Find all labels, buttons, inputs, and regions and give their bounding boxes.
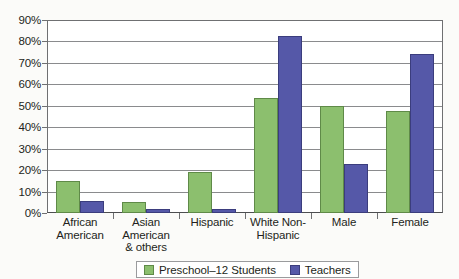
bar-group	[48, 21, 114, 213]
y-axis-tick-mark	[42, 213, 47, 214]
x-axis-category-label-line: African	[47, 216, 113, 229]
bar-students	[188, 172, 212, 213]
bar-teachers	[146, 209, 170, 213]
x-axis-category-label: Female	[377, 216, 443, 229]
x-axis-category-label-line: American	[113, 229, 179, 242]
green-swatch	[144, 265, 154, 275]
x-axis-category-label: Hispanic	[179, 216, 245, 229]
bars-layer	[48, 21, 442, 213]
x-axis-category-label-line: Hispanic	[179, 216, 245, 229]
x-axis-category-label-line: White Non-	[245, 216, 311, 229]
bar-students	[320, 106, 344, 213]
bar-group	[246, 21, 312, 213]
bar-students	[122, 202, 146, 213]
legend-entry: Preschool–12 Students	[144, 264, 276, 276]
bar-group	[312, 21, 378, 213]
y-axis-tick-label: 40%	[0, 122, 41, 133]
bar-chart-figure: 90%80%70%60%50%40%30%20%10%0% AfricanAme…	[0, 0, 459, 279]
bar-teachers	[410, 54, 434, 213]
bar-teachers	[212, 209, 236, 213]
bar-students	[56, 181, 80, 213]
x-axis-category-label-line: & others	[113, 241, 179, 254]
bar-teachers	[278, 36, 302, 213]
bar-group	[114, 21, 180, 213]
legend-label: Teachers	[305, 264, 351, 276]
x-axis: AfricanAmericanAsianAmerican& othersHisp…	[47, 216, 443, 256]
bar-teachers	[344, 164, 368, 213]
y-axis-tick-label: 50%	[0, 100, 41, 111]
y-axis-tick-label: 20%	[0, 165, 41, 176]
bar-students	[254, 98, 278, 213]
y-axis-tick-label: 70%	[0, 57, 41, 68]
chart-legend: Preschool–12 StudentsTeachers	[136, 261, 359, 278]
legend-entry: Teachers	[290, 264, 351, 276]
x-axis-category-label-line: Male	[311, 216, 377, 229]
y-axis-tick-label: 80%	[0, 36, 41, 47]
blue-swatch	[290, 265, 300, 275]
bar-students	[386, 111, 410, 213]
y-axis-tick-label: 60%	[0, 79, 41, 90]
x-axis-category-label: AfricanAmerican	[47, 216, 113, 241]
x-axis-category-label-line: Hispanic	[245, 229, 311, 242]
x-axis-category-label: AsianAmerican& others	[113, 216, 179, 254]
x-axis-category-label: Male	[311, 216, 377, 229]
bar-group	[180, 21, 246, 213]
y-axis-tick-label: 10%	[0, 186, 41, 197]
x-axis-category-label: White Non-Hispanic	[245, 216, 311, 241]
bar-group	[378, 21, 444, 213]
y-axis: 90%80%70%60%50%40%30%20%10%0%	[0, 20, 41, 213]
y-axis-tick-label: 0%	[0, 208, 41, 219]
y-axis-tick-label: 90%	[0, 15, 41, 26]
legend-label: Preschool–12 Students	[159, 264, 276, 276]
x-axis-category-label-line: Female	[377, 216, 443, 229]
x-axis-category-label-line: American	[47, 229, 113, 242]
y-axis-tick-label: 30%	[0, 143, 41, 154]
x-axis-category-label-line: Asian	[113, 216, 179, 229]
cropped-title-remnant	[0, 0, 459, 9]
bar-teachers	[80, 201, 104, 213]
